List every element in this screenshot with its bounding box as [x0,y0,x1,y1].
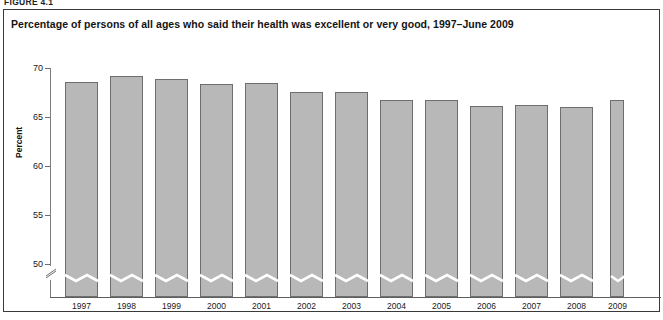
y-tick-mark-55 [45,215,50,216]
y-axis-title: Percent [14,88,24,158]
x-tick-label-1998: 1998 [109,301,144,311]
x-tick-label-1999: 1999 [154,301,189,311]
y-tick-label-65: 65 [21,112,43,122]
y-axis-break-icon [44,266,58,280]
y-tick-mark-50 [45,264,50,265]
x-tick-label-2003: 2003 [334,301,369,311]
y-tick-mark-60 [45,166,50,167]
bar-2008[interactable] [560,107,593,297]
y-tick-label-55: 55 [21,210,43,220]
y-tick-label-70: 70 [21,63,43,73]
y-tick-mark-65 [45,117,50,118]
x-tick-label-2002: 2002 [289,301,324,311]
x-tick-label-1997: 1997 [64,301,99,311]
x-tick-label-2009: 2009 [600,301,635,311]
x-tick-label-2005: 2005 [424,301,459,311]
x-tick-label-2006: 2006 [469,301,504,311]
bar-2006[interactable] [470,106,503,297]
y-tick-label-50: 50 [21,259,43,269]
x-tick-label-2001: 2001 [244,301,279,311]
bar-2009[interactable] [610,100,624,297]
bar-2007[interactable] [515,105,548,297]
bar-2005[interactable] [425,100,458,297]
x-axis-line [50,297,661,298]
bar-2000[interactable] [200,84,233,297]
bar-2001[interactable] [245,83,278,297]
chart-plot-area: Percent 70 65 60 55 50 [0,0,663,320]
bar-1998[interactable] [110,76,143,297]
bar-1997[interactable] [65,82,98,297]
bar-2003[interactable] [335,92,368,297]
x-tick-label-2007: 2007 [514,301,549,311]
x-tick-label-2000: 2000 [199,301,234,311]
bar-2002[interactable] [290,92,323,297]
x-tick-label-2004: 2004 [379,301,414,311]
bar-1999[interactable] [155,79,188,297]
y-tick-label-60: 60 [21,161,43,171]
y-tick-mark-70 [45,68,50,69]
y-axis-line [50,68,51,297]
x-tick-label-2008: 2008 [559,301,594,311]
bar-2004[interactable] [380,100,413,297]
